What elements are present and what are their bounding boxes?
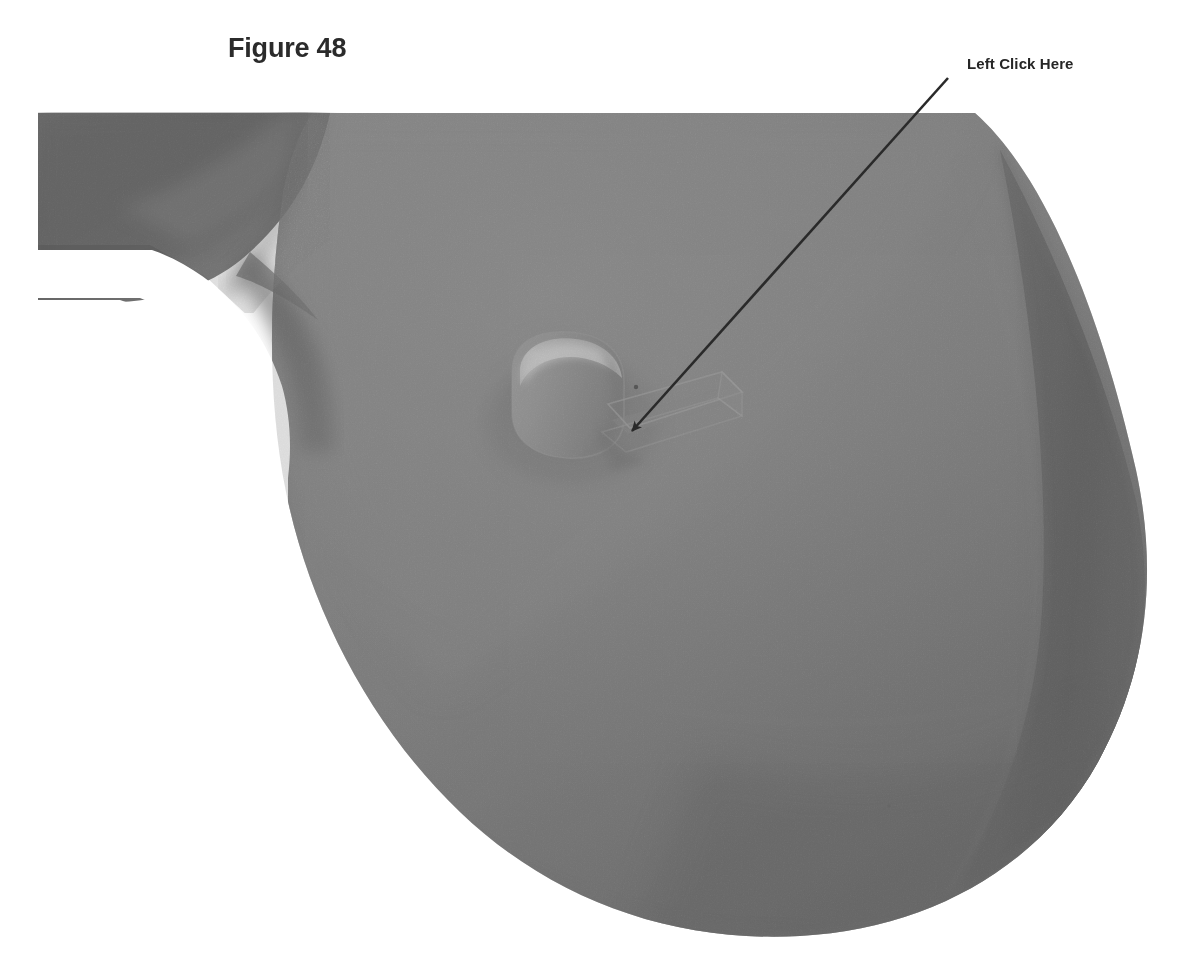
page-title: Figure 48 — [228, 33, 346, 64]
left-margin-background — [0, 0, 38, 971]
cad-model-svg — [0, 0, 1177, 971]
cad-model-viewport[interactable] — [0, 0, 1177, 971]
callout-label: Left Click Here — [967, 55, 1074, 72]
page-root: ............ — [0, 0, 1177, 971]
